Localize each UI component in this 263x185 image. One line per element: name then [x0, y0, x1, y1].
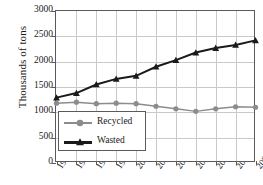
circle-marker-icon [74, 117, 86, 129]
y-axis-tick-label: 500 [19, 131, 53, 141]
legend-label-wasted: Wasted [97, 135, 125, 145]
data-point-circle [233, 104, 238, 109]
y-axis-tick-label: 2500 [19, 29, 53, 39]
data-point-circle [54, 101, 59, 106]
legend-entry-wasted: Wasted [59, 132, 145, 152]
chart-legend: Recycled Wasted [58, 111, 146, 151]
y-axis-tick-label: 2000 [19, 55, 53, 65]
y-axis-tick-label: 0 [19, 156, 53, 166]
data-point-circle [94, 101, 99, 106]
data-point-circle [134, 101, 139, 106]
triangle-marker-icon [74, 136, 86, 148]
data-point-circle [153, 104, 158, 109]
legend-entry-recycled: Recycled [59, 113, 145, 133]
y-axis-tick-label: 3000 [19, 4, 53, 14]
legend-label-recycled: Recycled [97, 116, 132, 126]
data-point-circle [173, 106, 178, 111]
data-point-circle [213, 106, 218, 111]
data-point-circle [74, 100, 79, 105]
y-axis-tick-label: 1000 [19, 105, 53, 115]
y-axis-tick-label: 1500 [19, 80, 53, 90]
data-point-circle [253, 105, 258, 110]
data-point-circle [114, 101, 119, 106]
data-point-circle [193, 109, 198, 114]
y-axis-tick-mark [52, 163, 56, 164]
chart-figure: Thousands of tons 3000250020001500100050… [0, 0, 263, 185]
